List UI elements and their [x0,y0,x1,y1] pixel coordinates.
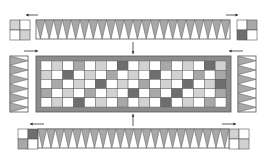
corner-bottom-left [18,129,38,149]
corner-top-right [237,20,257,40]
top-left-arrow [26,14,38,17]
right-side-arrow [229,50,243,53]
bottom-border [38,129,229,148]
quilt-diagram-svg [0,0,266,157]
corner-top-left [10,20,30,40]
quilt-diagram [0,0,266,157]
left-border [10,56,28,112]
bottom-left-arrow [30,123,44,126]
left-side-arrow [24,50,38,53]
center-bottom-arrow [132,114,135,126]
bottom-right-arrow [222,123,236,126]
center-panel [36,56,231,112]
center-top-arrow [132,42,135,54]
top-border [36,20,230,39]
right-border [238,56,256,112]
corner-bottom-right [229,129,249,149]
top-right-arrow [226,14,238,17]
